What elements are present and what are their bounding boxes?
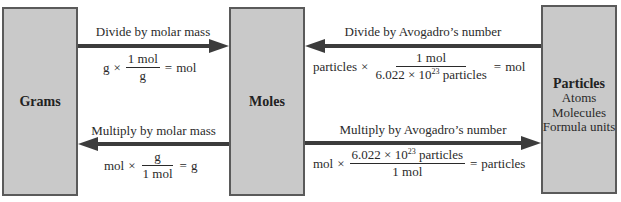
moles-title: Moles [249,94,285,109]
fraction: 6.022 × 1023 particles 1 mol [350,148,465,179]
denominator: 6.022 × 1023 particles [373,67,488,82]
particles-item-atoms: Atoms [562,91,597,106]
formula-result: mol [505,59,525,75]
particles-item-molecules: Molecules [552,106,606,121]
moles-to-particles-arrow-shaft [305,141,525,145]
denominator-coefficient: 6.022 × 10 [375,67,431,82]
equals-sign: = [180,158,187,174]
moles-to-particles-label: Multiply by Avogadro’s number [305,122,541,138]
numerator-exponent: 23 [408,147,416,156]
grams-to-moles-arrow-shaft [78,44,213,48]
denominator-exponent: 23 [431,67,439,76]
fraction: 1 mol 6.022 × 1023 particles [373,51,488,82]
numerator: g [142,150,173,166]
formula-lhs: particles [313,59,357,75]
moles-box: Moles [229,7,305,196]
formula-result: particles [481,156,525,172]
moles-to-grams-formula: mol × g 1 mol = g [104,150,197,181]
formula-lhs: mol [104,158,124,174]
times-sign: × [337,156,344,172]
denominator: g [138,68,149,83]
equals-sign: = [165,60,172,76]
particles-title: Particles [553,76,605,91]
times-sign: × [114,60,121,76]
formula-result: mol [176,60,196,76]
particles-item-formula-units: Formula units [543,120,616,135]
formula-lhs: g [103,60,110,76]
grams-to-moles-label: Divide by molar mass [78,24,228,40]
grams-box: Grams [2,7,78,196]
fraction: g 1 mol [141,150,175,181]
grams-title: Grams [19,94,60,109]
particles-to-moles-arrow-shaft [322,44,541,48]
denominator-unit: particles [443,67,487,82]
denominator: 1 mol [390,164,424,179]
particles-to-moles-label: Divide by Avogadro’s number [305,24,541,40]
times-sign: × [128,158,135,174]
numerator-coefficient: 6.022 × 10 [352,147,408,162]
numerator: 6.022 × 1023 particles [350,148,465,164]
moles-to-particles-formula: mol × 6.022 × 1023 particles 1 mol = par… [313,148,525,179]
times-sign: × [361,59,368,75]
numerator: 1 mol [126,52,160,68]
particles-box: Particles Atoms Molecules Formula units [541,5,617,194]
formula-lhs: mol [313,156,333,172]
numerator-unit: particles [419,147,463,162]
equals-sign: = [470,156,477,172]
formula-result: g [191,158,198,174]
fraction: 1 mol g [126,52,160,83]
numerator: 1 mol [396,51,466,67]
moles-to-grams-label: Multiply by molar mass [78,123,229,139]
equals-sign: = [494,59,501,75]
arrow-right-icon [209,39,229,53]
grams-to-moles-formula: g × 1 mol g = mol [103,52,196,83]
denominator: 1 mol [141,166,175,181]
particles-to-moles-formula: particles × 1 mol 6.022 × 1023 particles… [313,51,525,82]
moles-to-grams-arrow-shaft [95,142,229,146]
